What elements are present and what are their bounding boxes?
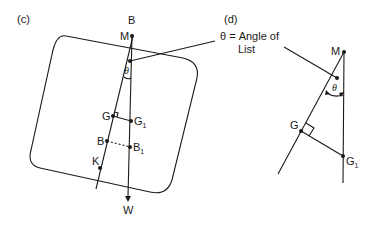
label-b1: B1 [133, 141, 144, 155]
point-g-d [299, 129, 303, 133]
point-g1 [129, 119, 133, 123]
b-b1-dashed-line [107, 141, 130, 147]
point-m-d [342, 50, 346, 54]
point-m [130, 34, 134, 38]
label-b: B [97, 135, 104, 147]
label-m-d: M [331, 45, 340, 57]
right-angle-mark-d [306, 123, 314, 136]
vertical-line-d [343, 52, 344, 183]
label-g-d: G [290, 119, 299, 131]
inclined-line-d [278, 52, 344, 174]
label-k: K [92, 155, 100, 167]
label-g1: G1 [134, 115, 147, 129]
arrow-down-icon [125, 196, 131, 202]
annotation-pointer-d [284, 47, 337, 78]
annotation-line-1: θ = Angle of [220, 30, 280, 42]
point-b1 [128, 145, 132, 149]
panel-label-d: (d) [224, 13, 237, 25]
point-g1-d [341, 154, 345, 158]
point-intersection [128, 59, 132, 63]
annotation-pointer [130, 41, 215, 61]
label-w: W [123, 204, 134, 216]
figure-c: (c) B M θ G G1 B B1 K W [17, 13, 215, 216]
figure-d: (d) θ = Angle of List M θ G G1 [220, 13, 359, 183]
point-g [111, 114, 115, 118]
g-g1-line-d [301, 131, 343, 156]
annotation-line-2: List [238, 43, 255, 55]
g-g1-line [113, 116, 131, 121]
label-theta: θ [124, 65, 129, 76]
label-g1-d: G1 [346, 155, 359, 169]
stability-diagram: (c) B M θ G G1 B B1 K W (d) θ = Angle of… [0, 0, 373, 225]
theta-arc [124, 77, 131, 79]
label-b-top: B [128, 14, 135, 26]
panel-label-c: (c) [17, 13, 30, 25]
label-theta-d: θ [332, 82, 337, 93]
point-b [105, 139, 109, 143]
label-g: G [102, 110, 111, 122]
label-m: M [120, 30, 129, 42]
point-intersection-d [335, 76, 339, 80]
